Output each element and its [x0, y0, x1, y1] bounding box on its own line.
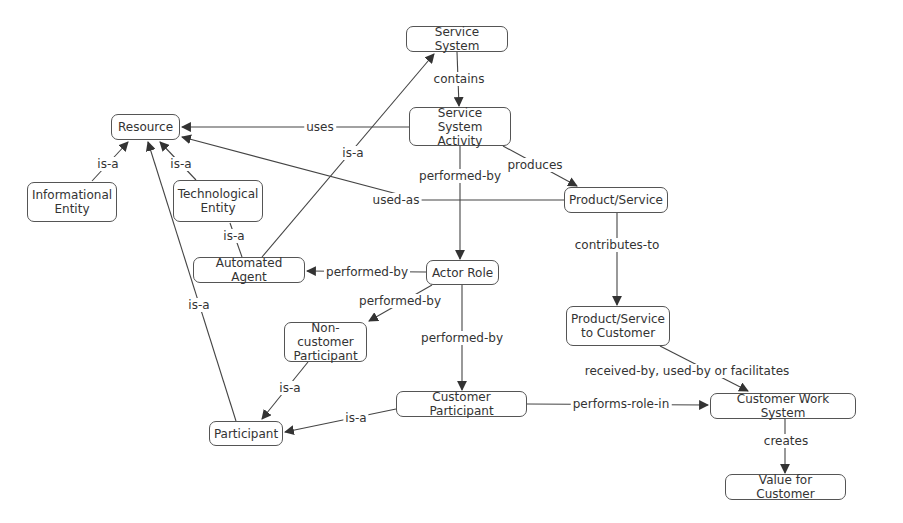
node-actor-role[interactable]: Actor Role: [426, 260, 499, 285]
node-value-for-customer[interactable]: Value for Customer: [725, 474, 846, 500]
node-participant[interactable]: Participant: [209, 421, 283, 446]
node-service-system-activity[interactable]: Service System Activity: [409, 107, 511, 146]
node-informational-entity[interactable]: Informational Entity: [27, 182, 117, 222]
node-technological-entity[interactable]: Technological Entity: [173, 180, 263, 222]
edge-label-received-by: received-by, used-by or facilitates: [583, 364, 792, 378]
edge-label-used-as: used-as: [371, 193, 422, 207]
edge-label-creates: creates: [762, 434, 810, 448]
edge-label-contributes-to: contributes-to: [573, 238, 661, 252]
node-resource[interactable]: Resource: [111, 114, 180, 140]
node-product-service-to-customer[interactable]: Product/Service to Customer: [566, 306, 670, 346]
node-non-customer-participant[interactable]: Non-customer Participant: [284, 322, 367, 362]
edge-label-performed-by-customer: performed-by: [419, 331, 505, 345]
edge-label-isa-participant-resource: is-a: [186, 298, 211, 312]
edge-label-uses: uses: [304, 120, 336, 134]
edge-label-performed-by-noncustomer: performed-by: [357, 294, 443, 308]
node-service-system[interactable]: Service System: [406, 26, 508, 52]
edge-label-performed-by-activity: performed-by: [417, 169, 503, 183]
edge-label-contains: contains: [432, 72, 487, 86]
edge-label-performed-by-automated: performed-by: [324, 265, 410, 279]
node-product-service[interactable]: Product/Service: [564, 187, 668, 213]
edge-label-isa-automated-technological: is-a: [221, 229, 246, 243]
edge-label-performs-role-in: performs-role-in: [571, 397, 672, 411]
edge-label-isa-informational: is-a: [95, 157, 120, 171]
edge-label-produces: produces: [505, 158, 564, 172]
edge-label-isa-automated-service-system: is-a: [340, 146, 365, 160]
edge-label-isa-noncustomer: is-a: [277, 381, 302, 395]
node-automated-agent[interactable]: Automated Agent: [193, 257, 305, 283]
node-customer-work-system[interactable]: Customer Work System: [710, 393, 856, 419]
edge-label-isa-technological: is-a: [168, 157, 193, 171]
edge-label-isa-customer: is-a: [343, 411, 368, 425]
node-customer-participant[interactable]: Customer Participant: [396, 391, 527, 417]
